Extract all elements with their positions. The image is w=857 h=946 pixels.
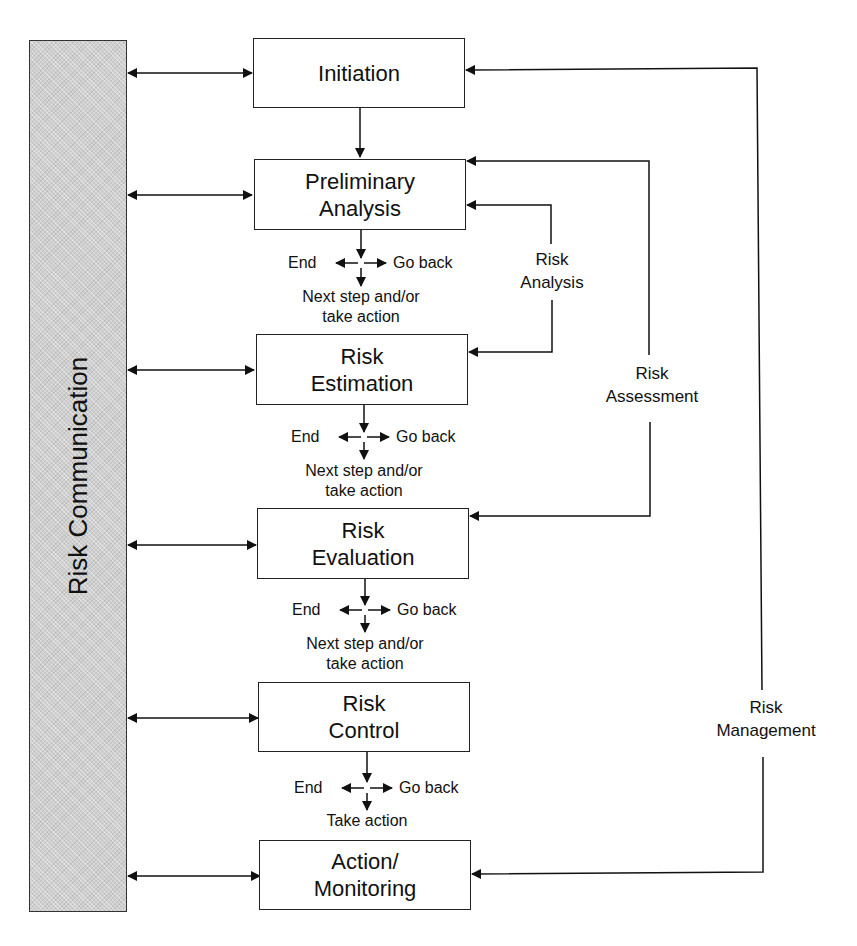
decision-go-back-label: Go back bbox=[399, 778, 459, 798]
decision-next-label: Next step and/or take action bbox=[265, 634, 465, 674]
risk-communication-label: Risk Communication bbox=[63, 357, 94, 595]
decision-go-back-label: Go back bbox=[396, 427, 456, 447]
decision-end-label: End bbox=[288, 253, 316, 273]
loop-line: Management bbox=[704, 719, 828, 742]
loop-line: Risk bbox=[593, 362, 711, 385]
step-label: Preliminary bbox=[305, 168, 415, 195]
step-label: Risk bbox=[343, 690, 386, 717]
step-label: Action/ bbox=[331, 848, 398, 875]
next-line: Next step and/or bbox=[264, 461, 464, 481]
decision-next-label: Take action bbox=[267, 811, 467, 831]
step-label: Risk bbox=[341, 343, 384, 370]
decision-next-label: Next step and/or take action bbox=[261, 287, 461, 327]
step-preliminary-analysis: Preliminary Analysis bbox=[254, 159, 466, 230]
risk-communication-panel: Risk Communication bbox=[29, 40, 127, 912]
decision-end-label: End bbox=[294, 778, 322, 798]
next-line: take action bbox=[261, 307, 461, 327]
step-risk-estimation: Risk Estimation bbox=[256, 334, 468, 405]
decision-next-label: Next step and/or take action bbox=[264, 461, 464, 501]
step-label: Estimation bbox=[311, 370, 414, 397]
step-label: Monitoring bbox=[314, 875, 417, 902]
decision-end-label: End bbox=[292, 600, 320, 620]
step-label: Control bbox=[329, 717, 400, 744]
decision-go-back-label: Go back bbox=[393, 253, 453, 273]
step-initiation: Initiation bbox=[253, 38, 465, 108]
next-line: Take action bbox=[267, 811, 467, 831]
loop-line: Assessment bbox=[593, 385, 711, 408]
step-label: Evaluation bbox=[312, 544, 415, 571]
decision-go-back-label: Go back bbox=[397, 600, 457, 620]
step-label: Risk bbox=[342, 517, 385, 544]
loop-line: Risk bbox=[704, 696, 828, 719]
step-label: Initiation bbox=[318, 60, 400, 87]
next-line: Next step and/or bbox=[261, 287, 461, 307]
step-action-monitoring: Action/ Monitoring bbox=[259, 840, 471, 910]
decision-end-label: End bbox=[291, 427, 319, 447]
next-line: take action bbox=[264, 481, 464, 501]
step-risk-control: Risk Control bbox=[258, 682, 470, 752]
step-label: Analysis bbox=[319, 195, 401, 222]
step-risk-evaluation: Risk Evaluation bbox=[257, 508, 469, 579]
loop-line: Risk bbox=[510, 248, 594, 271]
loop-risk-analysis-label: Risk Analysis bbox=[510, 248, 594, 294]
loop-risk-management-label: Risk Management bbox=[704, 696, 828, 742]
loop-risk-assessment-label: Risk Assessment bbox=[593, 362, 711, 408]
loop-line: Analysis bbox=[510, 271, 594, 294]
next-line: take action bbox=[265, 654, 465, 674]
next-line: Next step and/or bbox=[265, 634, 465, 654]
